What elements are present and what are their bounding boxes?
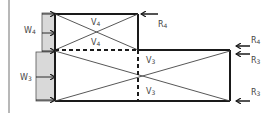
reaction-label-r3-right-bottom: R3 (251, 88, 261, 97)
reaction-label-r4-top: R4 (158, 20, 168, 29)
shear-label-v3-top: V3 (146, 56, 155, 65)
shear-label-v4-bottom: V4 (91, 38, 100, 47)
wind-load-w4-block (42, 13, 55, 52)
load-diagram: W4 W3 V4 V4 V3 V3 (0, 0, 278, 113)
shear-label-v3-bottom: V3 (146, 87, 155, 96)
lower-diaphragm (55, 50, 230, 101)
wind-label-w4: W4 (24, 26, 36, 35)
wind-load-w3-block (36, 52, 55, 101)
wind-label-w3: W3 (20, 73, 32, 82)
reaction-label-r4-right: R4 (251, 36, 261, 45)
reaction-label-r3-right-top: R3 (251, 56, 261, 65)
shear-label-v4-top: V4 (91, 18, 100, 27)
